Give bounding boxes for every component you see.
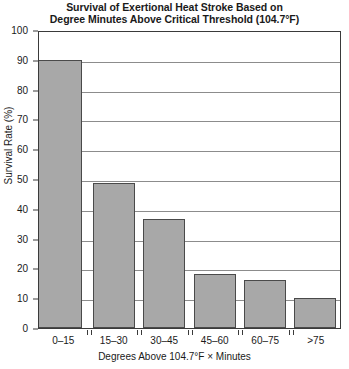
bar-slot: [240, 32, 290, 328]
y-tick-label-20: 20: [17, 264, 28, 274]
y-tick-label-90: 90: [17, 56, 28, 66]
bar: [93, 183, 135, 328]
y-tick-label-70: 70: [17, 115, 28, 125]
bar: [143, 219, 185, 328]
x-axis-tick-labels: 0–1515–3030–4545–6060–75>75: [38, 335, 341, 347]
x-tick-label: 45–60: [190, 335, 241, 347]
bar-slot: [89, 32, 139, 328]
y-tick-label-100: 100: [11, 26, 28, 36]
chart-title-line-1: Survival of Exertional Heat Stroke Based…: [0, 1, 349, 13]
y-tick-label-40: 40: [17, 205, 28, 215]
y-tick-label-50: 50: [17, 175, 28, 185]
y-tick-label-30: 30: [17, 235, 28, 245]
x-axis-title: Degrees Above 104.7°F × Minutes: [0, 351, 349, 362]
bar-slot: [139, 32, 189, 328]
plot-area: [38, 31, 341, 329]
chart-title: Survival of Exertional Heat Stroke Based…: [0, 1, 349, 25]
x-tick-label: 15–30: [89, 335, 140, 347]
bar-slot: [290, 32, 340, 328]
bar: [244, 280, 286, 328]
bar: [294, 298, 336, 328]
x-tick-label: 30–45: [139, 335, 190, 347]
y-tick-label-60: 60: [17, 145, 28, 155]
bar-chart-figure: Survival of Exertional Heat Stroke Based…: [0, 0, 349, 369]
x-tick-label: 0–15: [38, 335, 89, 347]
y-tick-label-80: 80: [17, 86, 28, 96]
bar-series: [39, 32, 340, 328]
x-tick-label: 60–75: [240, 335, 291, 347]
bar-slot: [190, 32, 240, 328]
y-axis-tick-labels: 0102030405060708090100: [0, 31, 33, 329]
bar-slot: [39, 32, 89, 328]
y-tick-label-0: 0: [22, 324, 28, 334]
bar: [194, 274, 236, 328]
bar: [39, 60, 82, 328]
y-tick-label-10: 10: [17, 294, 28, 304]
chart-title-line-2: Degree Minutes Above Critical Threshold …: [0, 13, 349, 25]
x-tick-label: >75: [291, 335, 342, 347]
